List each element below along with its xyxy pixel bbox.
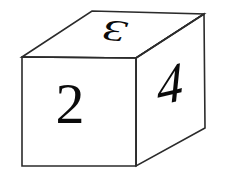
edge-front-top [22, 57, 136, 58]
digit-group-front: 2 [56, 71, 85, 136]
cube-diagram-canvas: 3 2 4 [0, 0, 225, 181]
front-face-digit: 2 [56, 71, 85, 136]
cube-drawing: 3 2 4 [0, 0, 225, 181]
